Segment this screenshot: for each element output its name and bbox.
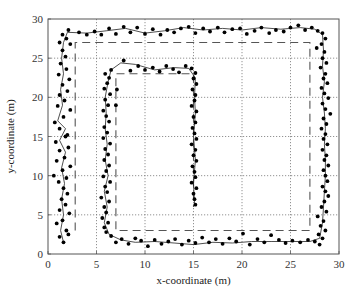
data-point	[321, 56, 325, 60]
data-point	[326, 96, 330, 100]
data-point	[58, 127, 62, 131]
data-point	[104, 114, 108, 118]
data-point	[53, 121, 57, 125]
data-point	[221, 242, 225, 246]
data-point	[151, 27, 155, 31]
y-tick-label: 0	[38, 248, 44, 260]
data-point	[323, 92, 327, 96]
data-point	[180, 243, 184, 247]
data-point	[77, 30, 81, 34]
data-point	[172, 30, 176, 34]
data-point	[284, 241, 288, 245]
data-point	[57, 73, 61, 77]
y-tick-label: 10	[32, 170, 44, 182]
data-point	[324, 189, 328, 193]
data-point	[223, 30, 227, 34]
data-point	[216, 26, 220, 30]
x-axis-label: x-coordinate (m)	[156, 274, 231, 287]
data-point	[99, 33, 103, 37]
data-point	[190, 142, 194, 146]
data-point	[166, 240, 170, 244]
data-point	[136, 64, 140, 68]
data-point	[194, 203, 198, 207]
data-point	[107, 27, 111, 31]
x-tick-label: 5	[94, 258, 100, 270]
data-point	[101, 109, 105, 113]
data-point	[194, 148, 198, 152]
data-point	[317, 233, 321, 237]
data-point	[325, 61, 329, 65]
data-point	[194, 241, 198, 245]
data-point	[107, 200, 111, 204]
data-point	[103, 147, 107, 151]
data-point	[104, 211, 108, 215]
data-point	[193, 99, 197, 103]
data-point	[52, 174, 56, 178]
data-point	[321, 185, 325, 189]
data-point	[129, 30, 133, 34]
data-point	[58, 41, 62, 45]
data-point	[324, 229, 328, 233]
y-tick-label: 25	[32, 52, 44, 64]
data-point	[62, 115, 66, 119]
data-point	[55, 222, 59, 226]
data-point	[62, 240, 66, 244]
data-point	[326, 142, 330, 146]
data-point	[326, 179, 330, 183]
x-tick-label: 15	[188, 258, 200, 270]
data-point	[104, 230, 108, 234]
data-point	[63, 156, 67, 160]
data-point	[65, 176, 69, 180]
data-point	[194, 175, 198, 179]
data-point	[103, 185, 107, 189]
data-point	[127, 242, 131, 246]
data-point	[315, 46, 319, 50]
data-point	[105, 190, 109, 194]
data-point	[195, 186, 199, 190]
data-point	[322, 137, 326, 141]
data-point	[316, 29, 320, 33]
data-point	[191, 164, 195, 168]
data-point	[64, 203, 68, 207]
data-point	[122, 25, 126, 29]
data-point	[61, 33, 65, 37]
data-point	[303, 28, 307, 32]
data-point	[67, 77, 71, 81]
data-point	[184, 64, 188, 68]
data-point	[66, 89, 70, 93]
y-tick-label: 5	[38, 209, 44, 221]
data-point	[324, 72, 328, 76]
data-point	[173, 237, 177, 241]
data-point	[289, 26, 293, 30]
data-point	[187, 25, 191, 29]
y-axis-label: y-coordinate (m)	[4, 99, 17, 174]
data-point	[63, 99, 67, 103]
data-point	[291, 239, 295, 243]
data-point	[326, 164, 330, 168]
data-point	[267, 31, 271, 35]
data-point	[55, 159, 59, 163]
data-point	[326, 194, 330, 198]
data-point	[62, 186, 66, 190]
data-point	[135, 26, 139, 30]
x-tick-label: 25	[285, 258, 297, 270]
data-point	[65, 67, 69, 71]
data-point	[61, 83, 65, 87]
data-point	[322, 117, 326, 121]
data-point	[66, 192, 70, 196]
data-point	[103, 72, 107, 76]
data-point	[194, 31, 198, 35]
data-point	[114, 240, 118, 244]
data-point	[61, 168, 65, 172]
data-point	[103, 98, 107, 102]
data-point	[122, 59, 126, 63]
data-point	[191, 126, 195, 130]
data-point	[325, 122, 329, 126]
data-point	[323, 158, 327, 162]
data-point	[313, 240, 317, 244]
data-point	[102, 125, 106, 129]
data-point	[319, 66, 323, 70]
data-point	[200, 236, 204, 240]
data-point	[296, 23, 300, 27]
data-point	[190, 104, 194, 108]
